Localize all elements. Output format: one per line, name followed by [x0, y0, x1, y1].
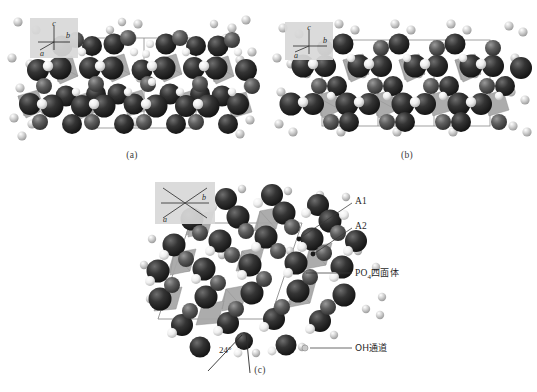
svg-text:a: a [40, 49, 44, 58]
label-po4-tetrahedron: PO4四面体 [355, 266, 399, 281]
panel-c-axis-indicator: b a [155, 182, 215, 224]
svg-text:b: b [323, 36, 327, 45]
panel-b-caption: (b) [387, 150, 427, 160]
label-oh-channel: OH通道 [355, 341, 388, 354]
panel-a: c b a (a) [0, 0, 265, 170]
panel-b-axis-indicator: c b a [285, 22, 333, 60]
svg-text:a: a [294, 51, 298, 60]
label-po4-base: PO [355, 268, 368, 278]
label-a2: A2 [355, 221, 367, 231]
svg-text:c: c [52, 19, 56, 28]
svg-text:b: b [202, 193, 206, 202]
panel-a-axis-indicator: c b a [30, 18, 78, 58]
label-po4-suffix: 四面体 [371, 268, 399, 278]
svg-text:b: b [66, 31, 70, 40]
svg-text:a: a [163, 215, 167, 224]
panel-a-caption: (a) [112, 150, 152, 160]
label-a1: A1 [355, 196, 367, 206]
crystal-structure-figure: c b a (a) [0, 0, 537, 392]
panel-b: c b a (b) [265, 0, 537, 170]
label-angle-24deg: 24° [219, 345, 232, 355]
panel-c: b a (c) [130, 175, 420, 392]
svg-text:c: c [307, 23, 311, 32]
